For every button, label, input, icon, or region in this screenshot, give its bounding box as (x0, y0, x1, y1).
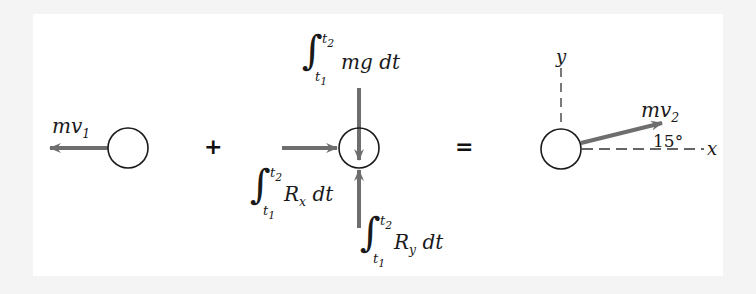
particle-1-circle (108, 128, 148, 168)
lower-limit: t1 (263, 204, 275, 221)
lower-limit: t1 (373, 252, 385, 269)
reaction-x-impulse-label: ∫ t2 t1 Rx dt (250, 164, 350, 224)
momentum-1-label: mv1 (52, 116, 90, 140)
particle-3-circle (541, 129, 581, 169)
upper-limit: t2 (380, 214, 392, 231)
angle-label: 15° (653, 131, 683, 151)
plus-operator: + (204, 134, 222, 159)
momentum-2-label: mv2 (641, 100, 679, 124)
integrand: Rx dt (284, 184, 333, 208)
integral-sign: ∫ (360, 212, 381, 252)
momentum-2-arrow (581, 123, 662, 143)
integrand: mg dt (341, 52, 400, 72)
final-state-group (541, 68, 704, 169)
upper-limit: t2 (322, 32, 334, 49)
figure-page: mv1 + ∫ t2 t1 mg dt ∫ t2 t1 Rx dt ∫ t2 t… (0, 0, 756, 294)
integrand: Ry dt (394, 232, 443, 256)
integral-sign: ∫ (250, 164, 271, 204)
lower-limit: t1 (315, 70, 327, 87)
x-axis-label: x (707, 140, 717, 158)
y-axis-label: y (556, 48, 566, 66)
integral-sign: ∫ (302, 30, 323, 70)
reaction-y-impulse-label: ∫ t2 t1 Ry dt (360, 212, 460, 272)
gravity-impulse-label: ∫ t2 t1 mg dt (302, 30, 412, 90)
equals-operator: = (455, 134, 473, 159)
upper-limit: t2 (270, 166, 282, 183)
